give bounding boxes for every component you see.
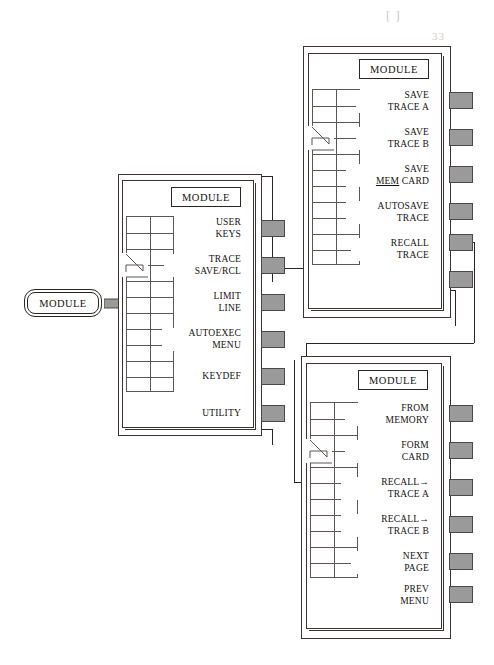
softkey-label-prev-menu: PREV MENU	[351, 584, 429, 607]
softkey-line: PREV	[351, 584, 429, 596]
softkey-line: TRACE	[346, 213, 429, 225]
softkey-label-autosave-trace: AUTOSAVE TRACE	[346, 201, 429, 224]
panel-menu-title: MODULE	[171, 187, 241, 207]
softkey-pad-2[interactable]	[449, 442, 473, 459]
softkey-line: LIMIT	[174, 291, 241, 303]
softkey-pad-6[interactable]	[449, 586, 473, 603]
panel-menu-title-label: MODULE	[370, 64, 418, 75]
softkey-line: AUTOSAVE	[346, 201, 429, 213]
module-hardkey-label: MODULE	[39, 298, 86, 309]
softkey-line: KEYDEF	[174, 371, 241, 383]
softkey-label-utility: UTILITY	[174, 408, 241, 420]
softkey-label-save-mem-card: SAVE MEM CARD	[346, 164, 429, 187]
softkey-pad-3[interactable]	[449, 479, 473, 496]
softkey-pad-2[interactable]	[261, 257, 285, 274]
softkey-line: USER	[174, 217, 241, 229]
ghost-text-line-2: 33	[432, 30, 445, 42]
softkey-line: MENU	[351, 596, 429, 608]
softkey-line: TRACE A	[341, 489, 429, 501]
softkey-label-autoexec-menu: AUTOEXEC MENU	[162, 328, 241, 351]
softkey-label-trace-save-rcl: TRACE SAVE/RCL	[164, 254, 241, 277]
softkey-pad-5[interactable]	[449, 234, 473, 251]
diagram-title: MODULE softkey menu map	[0, 0, 1, 1]
softkey-pad-1[interactable]	[261, 220, 285, 237]
softkey-line: RECALL→	[341, 477, 429, 489]
softkey-pad-6[interactable]	[261, 405, 285, 422]
softkey-line: SAVE	[356, 90, 429, 102]
softkey-line: TRACE	[164, 254, 241, 266]
softkey-line: UTILITY	[174, 408, 241, 420]
softkey-label-limit-line: LIMIT LINE	[174, 291, 241, 314]
ghost-text-line-1: [ ]	[386, 8, 401, 24]
softkey-line: SAVE/RCL	[164, 266, 241, 278]
softkey-line: NEXT	[351, 551, 429, 563]
softkey-label-save-trace-a: SAVE TRACE A	[356, 90, 429, 113]
softkey-line: SAVE	[346, 164, 429, 176]
softkey-line: FORM	[345, 440, 429, 452]
softkey-pad-1[interactable]	[449, 92, 473, 109]
softkey-label-keydef: KEYDEF	[174, 371, 241, 383]
graticule	[126, 216, 174, 392]
softkey-pad-2[interactable]	[449, 129, 473, 146]
softkey-line: FROM	[345, 403, 429, 415]
softkey-pad-3[interactable]	[449, 166, 473, 183]
module-hardkey-label-wrap: MODULE	[27, 292, 99, 314]
softkey-line: AUTOEXEC	[162, 328, 241, 340]
panel-menu-title-label: MODULE	[369, 375, 417, 386]
softkey-line: TRACE B	[356, 139, 429, 151]
softkey-pad-4[interactable]	[449, 516, 473, 533]
module-hardkey[interactable]: MODULE	[24, 289, 102, 317]
softkey-label-form-card: FORM CARD	[345, 440, 429, 463]
softkey-pad-4[interactable]	[261, 331, 285, 348]
softkey-line: TRACE B	[341, 526, 429, 538]
softkey-line: CARD	[345, 452, 429, 464]
softkey-line: SAVE	[356, 127, 429, 139]
panel-recall-trace: MODULE FROM MEMORY FORM CARD RECALL→ TRA…	[301, 356, 463, 639]
panel-trace-save-rcl: MODULE SAVE TRACE A SAVE TRACE B SAVE ME…	[303, 46, 463, 318]
softkey-label-from-memory: FROM MEMORY	[345, 403, 429, 426]
mem-underline: MEM	[376, 176, 399, 186]
panel-menu-title: MODULE	[358, 370, 428, 390]
softkey-line-mem-card: MEM CARD	[346, 176, 429, 188]
softkey-line: MEMORY	[345, 415, 429, 427]
softkey-label-user-keys: USER KEYS	[174, 217, 241, 240]
diagram-canvas: [ ] 33 [ ] panel 2 left edge --> right b…	[0, 0, 494, 665]
softkey-pad-3[interactable]	[261, 294, 285, 311]
softkey-pad-5[interactable]	[449, 553, 473, 570]
softkey-line: RECALL→	[341, 514, 429, 526]
softkey-line: TRACE	[351, 250, 429, 262]
softkey-line: LINE	[174, 303, 241, 315]
softkey-line: MENU	[162, 340, 241, 352]
softkey-pad-6[interactable]	[449, 271, 473, 288]
panel-menu-title: MODULE	[359, 59, 429, 79]
panel-module-main: MODULE USER KEYS TRACE SAVE/RCL LIMIT LI…	[118, 174, 268, 436]
softkey-line: KEYS	[174, 229, 241, 241]
softkey-label-recall-trace: RECALL TRACE	[351, 238, 429, 261]
softkey-pad-5[interactable]	[261, 368, 285, 385]
softkey-line: PAGE	[351, 563, 429, 575]
softkey-label-recall-trace-b: RECALL→ TRACE B	[341, 514, 429, 537]
panel-menu-title-label: MODULE	[182, 192, 230, 203]
softkey-label-save-trace-b: SAVE TRACE B	[356, 127, 429, 150]
softkey-line: RECALL	[351, 238, 429, 250]
softkey-pad-1[interactable]	[449, 405, 473, 422]
softkey-label-next-page: NEXT PAGE	[351, 551, 429, 574]
softkey-pad-4[interactable]	[449, 203, 473, 220]
softkey-line: TRACE A	[356, 102, 429, 114]
softkey-label-recall-trace-a: RECALL→ TRACE A	[341, 477, 429, 500]
